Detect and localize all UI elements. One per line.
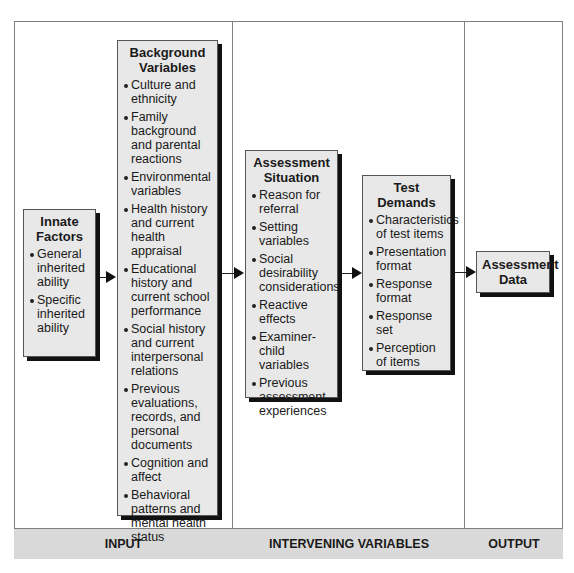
list-item: Previous evaluations, records, and perso… bbox=[123, 382, 212, 452]
list-item: Health history and current health apprai… bbox=[123, 202, 212, 258]
section-divider-output bbox=[464, 21, 465, 559]
list-item: Perception of items bbox=[368, 341, 445, 369]
arrow-right-icon bbox=[234, 267, 244, 279]
section-label-output: OUTPUT bbox=[465, 528, 563, 559]
box-innate-factors: Innate Factors General inherited ability… bbox=[23, 209, 96, 357]
section-label-output-text: OUTPUT bbox=[488, 537, 539, 551]
list-item: Reactive effects bbox=[251, 298, 332, 326]
list-item: Behavioral patterns and mental health st… bbox=[123, 488, 212, 544]
box-test-demands: Test Demands Characteristics of test ite… bbox=[362, 175, 451, 371]
list-item: Specific inherited ability bbox=[29, 293, 90, 335]
item-list: Reason for referral Setting variables So… bbox=[251, 188, 332, 418]
box-assessment-data: Assessment Data bbox=[476, 251, 550, 293]
list-item: Response format bbox=[368, 277, 445, 305]
list-item: Educational history and current school p… bbox=[123, 262, 212, 318]
box-title: Test Demands bbox=[368, 180, 445, 210]
list-item: General inherited ability bbox=[29, 247, 90, 289]
list-item: Environmental variables bbox=[123, 170, 212, 198]
box-title: Assessment Data bbox=[482, 257, 544, 287]
list-item: Characteristics of test items bbox=[368, 213, 445, 241]
list-item: Examiner-child variables bbox=[251, 330, 332, 372]
section-label-intervening-text: INTERVENING VARIABLES bbox=[269, 537, 429, 551]
item-list: General inherited ability Specific inher… bbox=[29, 247, 90, 335]
arrow-right-icon bbox=[466, 266, 476, 278]
list-item: Previous assessment experiences bbox=[251, 376, 332, 418]
list-item: Social history and current interpersonal… bbox=[123, 322, 212, 378]
list-item: Cognition and affect bbox=[123, 456, 212, 484]
section-divider-input bbox=[232, 21, 233, 559]
arrow-right-icon bbox=[106, 271, 116, 283]
section-label-intervening: INTERVENING VARIABLES bbox=[233, 528, 465, 559]
list-item: Setting variables bbox=[251, 220, 332, 248]
list-item: Culture and ethnicity bbox=[123, 78, 212, 106]
list-item: Family background and parental reactions bbox=[123, 110, 212, 166]
box-title: Background Variables bbox=[123, 45, 212, 75]
list-item: Social desirability considerations bbox=[251, 252, 332, 294]
box-title: Innate Factors bbox=[29, 214, 90, 244]
list-item: Response set bbox=[368, 309, 445, 337]
item-list: Characteristics of test items Presentati… bbox=[368, 213, 445, 369]
box-assessment-situation: Assessment Situation Reason for referral… bbox=[245, 150, 338, 398]
item-list: Culture and ethnicity Family background … bbox=[123, 78, 212, 544]
list-item: Reason for referral bbox=[251, 188, 332, 216]
list-item: Presentation format bbox=[368, 245, 445, 273]
arrow-right-icon bbox=[352, 267, 362, 279]
box-background-variables: Background Variables Culture and ethnici… bbox=[117, 40, 218, 516]
box-title: Assessment Situation bbox=[251, 155, 332, 185]
